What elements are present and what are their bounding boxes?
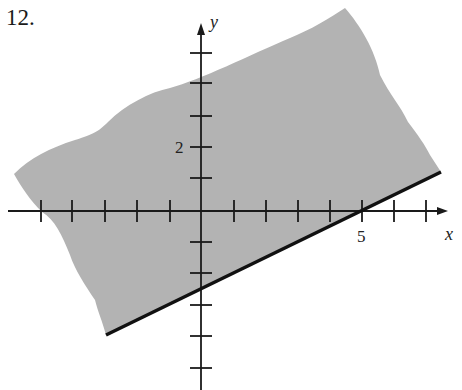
x-axis-label: x — [444, 224, 453, 244]
x-axis-arrow-icon — [437, 207, 448, 215]
y-axis-label: y — [208, 12, 218, 32]
y-tick-label-2: 2 — [175, 138, 184, 157]
inequality-graph: 5 2 x y — [0, 0, 462, 390]
y-axis-arrow-icon — [197, 23, 205, 35]
x-tick-label-5: 5 — [357, 227, 366, 246]
shaded-region — [14, 8, 441, 335]
